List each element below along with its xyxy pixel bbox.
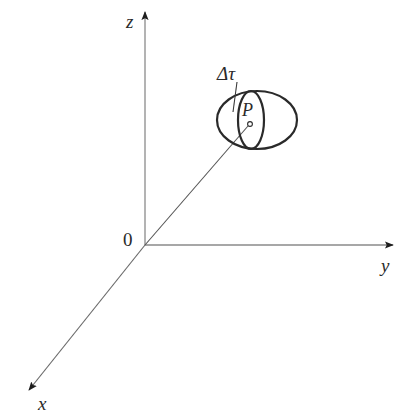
origin-label: 0 [123, 230, 133, 249]
point-p-label: P [242, 101, 253, 119]
diagram-svg [0, 0, 410, 417]
volume-element-outer-ellipse [217, 91, 297, 149]
y-axis-label: y [381, 256, 389, 275]
point-p-marker [248, 122, 253, 127]
diagram-canvas: z y x 0 P Δτ [0, 0, 410, 417]
delta-tau-label: Δτ [217, 64, 235, 83]
z-axis-label: z [126, 12, 133, 31]
x-axis-label: x [38, 394, 46, 413]
x-axis [29, 245, 145, 390]
